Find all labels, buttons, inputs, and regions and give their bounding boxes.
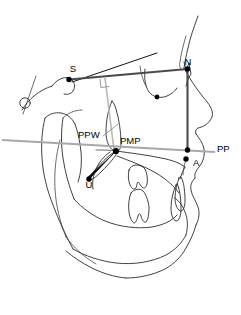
sella-nasion-plane-line <box>69 69 188 80</box>
cephalometric-svg: S N PPW PMP PP A U <box>0 0 241 315</box>
condyle-line <box>45 113 75 124</box>
upper-molar-outline <box>128 165 147 189</box>
label-a: A <box>193 157 200 168</box>
landmark-dot-apoint <box>183 156 188 161</box>
upper-lip-profile-line <box>195 134 205 178</box>
ear-rod-line <box>23 76 36 114</box>
label-u: U <box>86 179 93 190</box>
measurement-lines-group <box>2 53 215 179</box>
cephalometric-figure: S N PPW PMP PP A U <box>0 0 241 315</box>
landmark-dots-group <box>66 66 190 181</box>
label-n: N <box>185 56 192 67</box>
landmark-dot-pp <box>185 147 190 152</box>
uvula-outline <box>89 152 117 180</box>
chin-profile-line <box>126 225 196 278</box>
label-ppw: PPW <box>78 129 100 140</box>
posterior-pharyngeal-wall-line <box>62 118 75 199</box>
hard-palate-upper-line <box>116 151 185 167</box>
lower-molar-outline <box>129 189 149 223</box>
label-s: S <box>70 63 76 74</box>
anterior-nasal-spine-line <box>180 167 185 179</box>
porion-circle <box>20 98 30 108</box>
tongue-dorsum-line <box>74 199 177 228</box>
landmark-dot-nasion <box>185 66 190 71</box>
lower-lip-profile-line <box>191 178 199 225</box>
mandible-lower-border-line <box>73 235 186 264</box>
hard-palate-lower-line <box>117 156 179 193</box>
label-pmp: PMP <box>120 135 141 146</box>
landmark-dot-clivus <box>155 95 160 100</box>
submental-line <box>66 251 126 278</box>
landmark-dot-pmp <box>113 148 119 154</box>
landmark-dot-sella <box>66 77 71 82</box>
neck-line <box>66 237 96 264</box>
label-pp: PP <box>217 143 230 154</box>
